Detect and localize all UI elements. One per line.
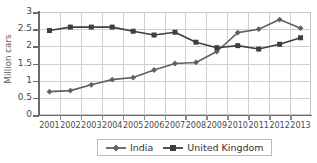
- data-point-marker: [235, 43, 240, 48]
- diamond-marker-icon: [105, 143, 127, 153]
- y-axis-tick-label: 3: [26, 6, 32, 16]
- y-axis-tick-label: 1: [26, 75, 32, 85]
- line-chart: Million cars 00.511.522.53 2001200220032…: [0, 0, 317, 163]
- x-axis-tick-label: 2012: [269, 121, 289, 130]
- x-axis-tick-label: 2001: [39, 121, 59, 130]
- x-axis-tick: [227, 115, 229, 120]
- x-axis-tick: [206, 115, 208, 120]
- y-axis-tick: [33, 115, 39, 117]
- data-point-marker: [173, 30, 178, 35]
- data-point-marker: [152, 33, 157, 38]
- x-axis-tick-label: 2006: [144, 121, 164, 130]
- x-axis-line: [38, 115, 312, 117]
- data-point-marker: [109, 77, 115, 83]
- x-axis-tick: [144, 115, 146, 120]
- square-marker-icon: [162, 143, 184, 153]
- data-point-marker: [193, 60, 199, 66]
- x-axis-tick-label: 2005: [123, 121, 143, 130]
- x-axis-tick-label: 2003: [81, 121, 101, 130]
- y-axis-tick: [33, 81, 39, 83]
- data-point-marker: [277, 42, 282, 47]
- data-point-marker: [130, 75, 136, 81]
- legend-entry-label: India: [130, 142, 153, 153]
- data-point-marker: [131, 29, 136, 34]
- y-axis-title-label: Million cars: [3, 34, 13, 83]
- x-axis-tick-label: 2002: [60, 121, 80, 130]
- y-axis-tick-label: 2: [26, 40, 32, 50]
- x-axis-tick: [123, 115, 125, 120]
- x-axis-tick-label: 2008: [186, 121, 206, 130]
- legend-entry-united-kingdom[interactable]: United Kingdom: [162, 142, 263, 153]
- data-point-marker: [298, 35, 303, 40]
- data-point-marker: [298, 25, 304, 31]
- y-axis-tick-label: 0: [26, 109, 32, 119]
- y-axis-tick: [33, 98, 39, 100]
- data-point-marker: [172, 61, 178, 67]
- x-axis-tick: [165, 115, 167, 120]
- x-axis-tick: [102, 115, 104, 120]
- data-point-marker: [256, 47, 261, 52]
- x-axis-tick-label: 2007: [165, 121, 185, 130]
- legend-entry-india[interactable]: India: [105, 142, 153, 153]
- y-axis-tick: [33, 12, 39, 14]
- x-axis-tick: [185, 115, 187, 120]
- y-axis-tick: [33, 29, 39, 31]
- data-point-marker: [88, 82, 94, 88]
- data-point-marker: [67, 88, 73, 94]
- data-point-marker: [214, 45, 219, 50]
- x-axis-tick-label: 2010: [228, 121, 248, 130]
- data-point-marker: [151, 67, 157, 73]
- data-point-marker: [277, 17, 283, 23]
- data-point-marker: [47, 28, 52, 33]
- data-point-marker: [68, 25, 73, 30]
- data-point-marker: [47, 89, 53, 95]
- x-axis-tick-label: 2011: [249, 121, 269, 130]
- x-axis-tick-label: 2013: [290, 121, 310, 130]
- plot-area: [39, 12, 311, 115]
- data-point-marker: [110, 25, 115, 30]
- legend-entry-label: United Kingdom: [187, 142, 263, 153]
- y-axis-tick-label: 1.5: [18, 58, 32, 68]
- data-point-marker: [256, 26, 262, 32]
- x-axis-tick: [290, 115, 292, 120]
- y-axis-tick: [33, 64, 39, 66]
- chart-legend: IndiaUnited Kingdom: [97, 139, 272, 156]
- y-axis-title: Million cars: [0, 0, 16, 118]
- series-layer: [39, 12, 311, 115]
- y-axis-tick: [33, 46, 39, 48]
- y-axis-tick-label: 0.5: [18, 92, 32, 102]
- x-axis-tick: [60, 115, 62, 120]
- x-axis-tick: [248, 115, 250, 120]
- x-axis-tick: [269, 115, 271, 120]
- x-axis-tick-label: 2009: [207, 121, 227, 130]
- data-point-marker: [193, 40, 198, 45]
- x-axis-tick-label: 2004: [102, 121, 122, 130]
- data-point-marker: [89, 25, 94, 30]
- y-axis-tick-label: 2.5: [18, 23, 32, 33]
- x-axis-tick: [81, 115, 83, 120]
